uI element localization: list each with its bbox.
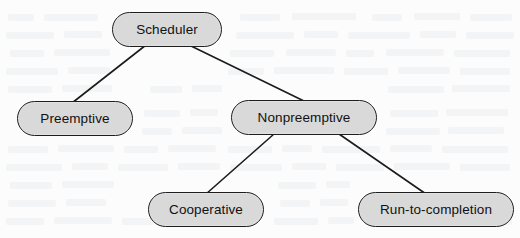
edge-scheduler-to-preemptive — [72, 45, 146, 103]
edge-scheduler-to-nonpreemptive — [189, 45, 306, 102]
node-run-to-completion[interactable]: Run-to-completion — [358, 192, 514, 227]
node-preemptive[interactable]: Preemptive — [17, 101, 133, 136]
edge-nonpreemptive-to-cooperative — [206, 134, 274, 194]
node-nonpreemptive-label: Nonpreemptive — [258, 110, 351, 124]
node-cooperative[interactable]: Cooperative — [148, 192, 264, 227]
node-scheduler-label: Scheduler — [136, 22, 198, 36]
scheduler-taxonomy-diagram: Scheduler Preemptive Nonpreemptive Coope… — [0, 0, 520, 238]
edge-nonpreemptive-to-run-to-completion — [339, 134, 426, 194]
node-run-to-completion-label: Run-to-completion — [380, 202, 492, 216]
node-cooperative-label: Cooperative — [169, 202, 243, 216]
node-nonpreemptive[interactable]: Nonpreemptive — [231, 100, 377, 135]
node-preemptive-label: Preemptive — [40, 111, 109, 125]
node-scheduler[interactable]: Scheduler — [112, 12, 222, 47]
